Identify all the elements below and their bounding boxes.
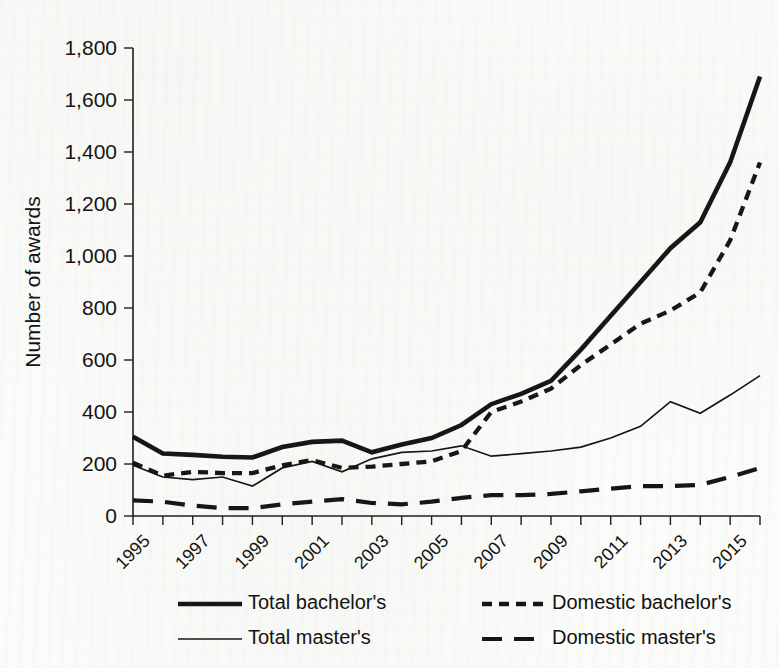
- legend-item-domestic-bachelor-s[interactable]: Domestic bachelor's: [482, 591, 731, 613]
- y-axis-tick-label: 0: [105, 504, 117, 527]
- series-lines: [133, 77, 760, 509]
- legend-label: Domestic bachelor's: [552, 591, 731, 613]
- x-axis-tick-label: 2015: [709, 531, 751, 573]
- chart-canvas: 02004006008001,0001,2001,4001,6001,800 1…: [0, 0, 779, 668]
- x-axis-tick-label: 2009: [529, 531, 571, 573]
- legend-label: Total master's: [248, 626, 371, 648]
- legend-label: Domestic master's: [552, 626, 716, 648]
- x-axis-tick-label: 2001: [291, 531, 333, 573]
- x-axis-tick-label: 2011: [590, 531, 632, 573]
- series-line-total-bachelor-s: [133, 77, 760, 458]
- line-chart: 02004006008001,0001,2001,4001,6001,800 1…: [0, 0, 779, 668]
- chart-legend: Total bachelor'sDomestic bachelor'sTotal…: [178, 591, 731, 648]
- x-axis-tick-label: 2007: [470, 531, 512, 573]
- series-line-domestic-master-s: [133, 468, 760, 508]
- y-axis-tick-label: 1,800: [64, 36, 117, 59]
- x-axis-tick-label: 1995: [111, 531, 153, 573]
- y-axis-tick-label: 1,200: [64, 192, 117, 215]
- x-axis-tick-label: 1997: [171, 531, 213, 573]
- legend-item-total-master-s[interactable]: Total master's: [178, 626, 371, 648]
- y-axis-tick-label: 1,400: [64, 140, 117, 163]
- y-axis-tick-label: 600: [82, 348, 117, 371]
- y-axis-tick-label: 800: [82, 296, 117, 319]
- x-axis-tick-label: 2005: [410, 531, 452, 573]
- y-axis-tick-label: 400: [82, 400, 117, 423]
- y-axis-tick-label: 200: [82, 452, 117, 475]
- y-axis-tick-label: 1,600: [64, 88, 117, 111]
- series-line-domestic-bachelor-s: [133, 162, 760, 475]
- y-axis-tick-label: 1,000: [64, 244, 117, 267]
- x-axis-tick-label: 1999: [231, 531, 273, 573]
- legend-label: Total bachelor's: [248, 591, 386, 613]
- x-axis-tick-label: 2013: [649, 531, 691, 573]
- legend-item-domestic-master-s[interactable]: Domestic master's: [482, 626, 716, 648]
- legend-item-total-bachelor-s[interactable]: Total bachelor's: [178, 591, 386, 613]
- x-axis: 1995199719992001200320052007200920112013…: [111, 516, 760, 573]
- x-axis-tick-label: 2003: [350, 531, 392, 573]
- y-axis-title: Number of awards: [21, 196, 44, 368]
- y-axis: 02004006008001,0001,2001,4001,6001,800: [64, 36, 133, 527]
